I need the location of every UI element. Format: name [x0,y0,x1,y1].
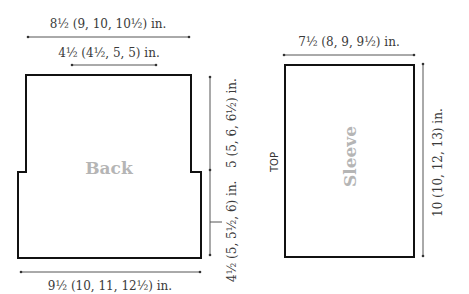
schematic: 8½ (9, 10, 10½) in. 4½ (4½, 5, 5) in. Ba… [0,0,469,294]
back-piece: 8½ (9, 10, 10½) in. 4½ (4½, 5, 5) in. Ba… [18,17,239,293]
back-bottom-width-label: 9½ (10, 11, 12½) in. [48,279,172,293]
back-top-width-label: 8½ (9, 10, 10½) in. [50,17,167,31]
back-lower-height-label: 4½ (5, 5½, 6) in. [225,181,239,282]
back-neck-width-label: 4½ (4½, 5, 5) in. [58,46,159,60]
sleeve-length-label: 10 (10, 12, 13) in. [431,108,445,217]
back-label: Back [85,158,134,178]
sleeve-label: Sleeve [340,126,360,187]
sleeve-width-label: 7½ (8, 9, 9½) in. [298,35,399,49]
back-upper-height-label: 5 (5, 6, 6½) in. [225,78,239,168]
sleeve-top-marker: TOP [269,152,280,173]
sleeve-piece: 7½ (8, 9, 9½) in. Sleeve TOP 10 (10, 12,… [269,35,445,257]
